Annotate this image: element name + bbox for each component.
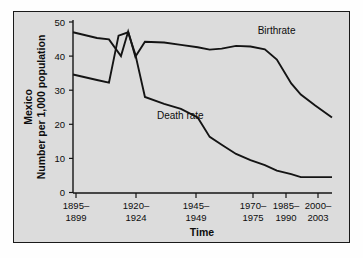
y-tick-label: 40 [54, 51, 65, 62]
x-tick-group: 1895–18991920–19241945–19491970–19751985… [63, 193, 332, 223]
plot-area: 01020304050 1895–18991920–19241945–19491… [0, 0, 363, 258]
y-tick-label: 30 [54, 85, 65, 96]
y-tick-label: 0 [60, 187, 65, 198]
x-tick-label-bottom: 1990 [275, 212, 296, 223]
data-series-group [73, 32, 332, 178]
y-axis-title-primary: Mexico [22, 89, 34, 125]
figure-container: 01020304050 1895–18991920–19241945–19491… [0, 0, 363, 258]
x-tick-label-bottom: 2003 [307, 212, 328, 223]
y-tick-label: 50 [54, 17, 65, 28]
x-tick-label-bottom: 1924 [125, 212, 146, 223]
x-tick-label-bottom: 1899 [65, 212, 86, 223]
y-tick-group: 01020304050 [54, 17, 73, 199]
y-axis-title-secondary: Number per 1,000 population [35, 35, 47, 180]
x-tick-label-top: 1945– [183, 200, 210, 211]
x-tick-label-bottom: 1975 [242, 212, 263, 223]
x-axis: 1895–18991920–19241945–19491970–19751985… [63, 193, 332, 223]
x-tick-label-top: 1920– [123, 200, 150, 211]
series-line-death-rate [73, 32, 332, 177]
series-annotation-group: BirthrateDeath rate [157, 25, 296, 121]
y-tick-label: 10 [54, 153, 65, 164]
x-tick-label-bottom: 1949 [185, 212, 206, 223]
x-tick-label-top: 1895– [63, 200, 90, 211]
x-tick-label-top: 1985– [273, 200, 300, 211]
y-axis: 01020304050 [54, 17, 73, 199]
series-annotation-birthrate: Birthrate [258, 25, 296, 36]
series-line-birthrate [73, 32, 332, 118]
series-annotation-death-rate: Death rate [157, 110, 204, 121]
x-axis-title: Time [190, 226, 214, 238]
line-chart: 01020304050 1895–18991920–19241945–19491… [0, 0, 363, 258]
x-tick-label-top: 2000– [305, 200, 332, 211]
x-tick-label-top: 1970– [240, 200, 267, 211]
y-tick-label: 20 [54, 119, 65, 130]
